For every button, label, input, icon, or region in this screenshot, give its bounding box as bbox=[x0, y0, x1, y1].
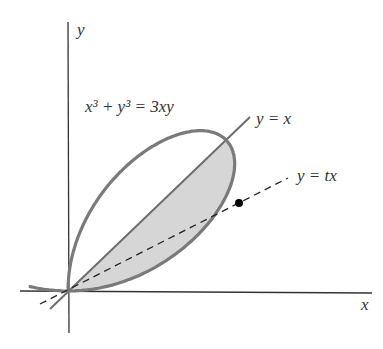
line-y-tx-label: y = tx bbox=[295, 166, 337, 185]
equation-label: x³ + y³ = 3xy bbox=[84, 97, 174, 116]
intersection-point bbox=[235, 199, 243, 207]
line-y-equals-x bbox=[50, 117, 250, 309]
y-axis-label: y bbox=[75, 20, 85, 39]
folium-diagram: y x x³ + y³ = 3xy y = x y = tx bbox=[0, 0, 383, 349]
line-y-x-label: y = x bbox=[254, 109, 292, 128]
x-axis-label: x bbox=[360, 295, 369, 314]
